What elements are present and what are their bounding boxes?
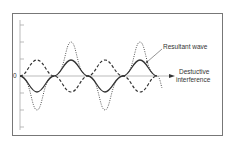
- resultant-pointer: [147, 49, 162, 62]
- arrow-head-icon: [169, 74, 175, 78]
- zero-label: 0: [13, 72, 17, 79]
- destructive-label-line2: interference: [176, 76, 210, 83]
- resultant-dot: [146, 61, 148, 63]
- destructive-label-line1: Destuctive: [179, 68, 209, 75]
- resultant-wave-label: Resultant wave: [163, 43, 207, 50]
